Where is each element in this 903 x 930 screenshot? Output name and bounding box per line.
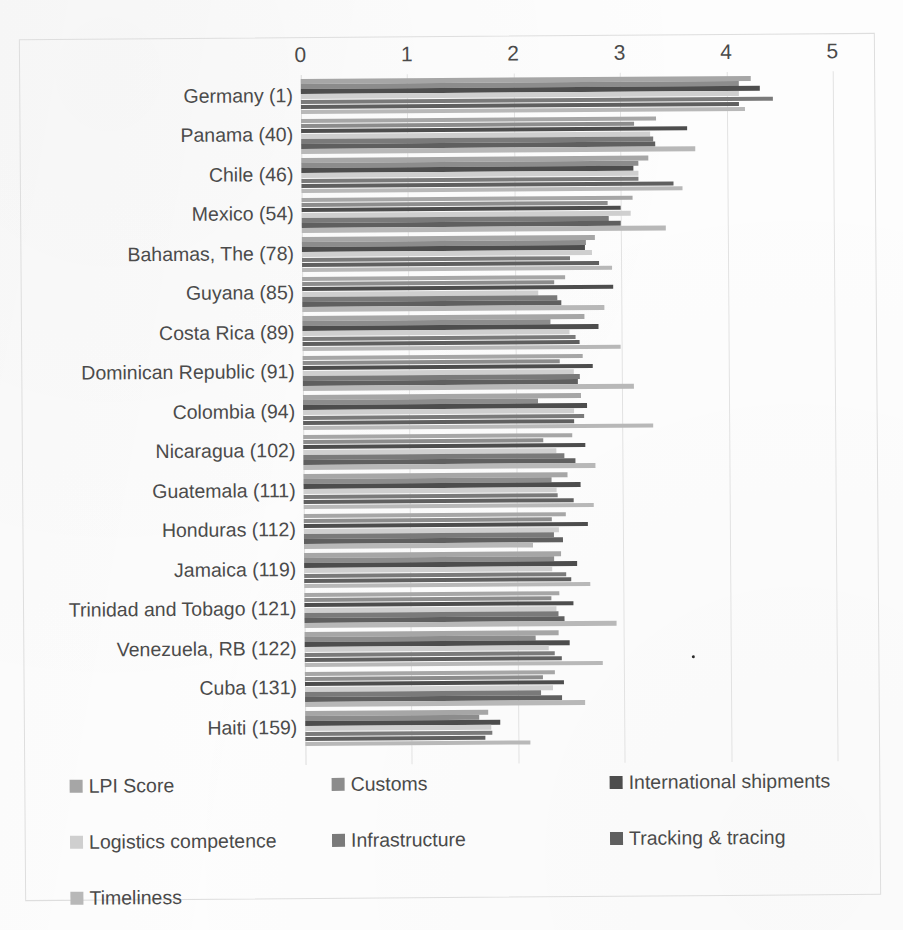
- bar-group: [303, 391, 839, 430]
- gridlines: [0, 0, 900, 3]
- bar-group: [302, 273, 838, 312]
- legend-swatch-icon: [610, 832, 623, 845]
- x-tick-label-5: 5: [812, 39, 852, 63]
- bar-timeliness: [305, 621, 617, 628]
- legend-label: International shipments: [629, 769, 831, 793]
- x-tick-label-3: 3: [600, 41, 640, 65]
- bar-group: [302, 194, 838, 233]
- category-label: Guyana (85): [0, 281, 294, 306]
- bar-group: [303, 352, 839, 391]
- legend-swatch-icon: [332, 778, 345, 791]
- bar-group: [301, 115, 837, 154]
- category-label: Panama (40): [0, 123, 293, 148]
- category-label: Jamaica (119): [0, 558, 296, 583]
- category-label: Germany (1): [0, 84, 293, 109]
- bar-group: [305, 707, 841, 746]
- category-label: Guatemala (111): [0, 479, 296, 504]
- legend-label: Customs: [351, 772, 428, 796]
- x-tick-label-0: 0: [281, 43, 321, 67]
- x-axis-tick-labels: 012345: [0, 0, 900, 3]
- x-tick-label-2: 2: [493, 41, 533, 65]
- category-label: Mexico (54): [0, 202, 294, 227]
- legend-label: Infrastructure: [351, 828, 466, 852]
- bar-timeliness: [305, 740, 530, 746]
- legend-swatch-icon: [610, 776, 623, 789]
- bar-timeliness: [303, 463, 595, 470]
- category-label: Colombia (94): [0, 400, 295, 425]
- bar-series-container: [0, 0, 900, 3]
- bar-timeliness: [305, 700, 585, 707]
- legend-label: LPI Score: [89, 774, 175, 798]
- category-label: Trinidad and Tobago (121): [0, 597, 297, 622]
- bar-timeliness: [304, 582, 590, 589]
- category-label: Venezuela, RB (122): [0, 637, 297, 662]
- bar-group: [305, 628, 841, 667]
- legend-label: Timeliness: [89, 886, 182, 910]
- bar-group: [304, 470, 840, 509]
- category-label: Cuba (131): [0, 676, 297, 701]
- legend-swatch-icon: [70, 780, 83, 793]
- legend-label: Logistics competence: [89, 829, 277, 853]
- scan-speck: [692, 655, 695, 658]
- bar-group: [302, 312, 838, 351]
- bar-timeliness: [304, 503, 594, 510]
- legend-swatch-icon: [70, 836, 83, 849]
- legend-item-international-shipments[interactable]: International shipments: [610, 769, 831, 794]
- bar-timeliness: [304, 543, 533, 549]
- y-axis-category-labels: Germany (1)Panama (40)Chile (46)Mexico (…: [0, 0, 900, 3]
- bar-group: [304, 510, 840, 549]
- bar-group: [304, 549, 840, 588]
- legend-item-logistics-competence[interactable]: Logistics competence: [70, 829, 277, 853]
- category-label: Nicaragua (102): [0, 439, 295, 464]
- bar-group: [303, 431, 839, 470]
- bar-timeliness: [302, 266, 612, 273]
- legend-item-timeliness[interactable]: Timeliness: [70, 886, 182, 910]
- chart-legend: LPI ScoreCustomsInternational shipmentsL…: [70, 769, 871, 905]
- x-tick-label-1: 1: [387, 42, 427, 66]
- bar-group: [304, 589, 840, 628]
- legend-item-tracking-tracing[interactable]: Tracking & tracing: [610, 826, 786, 850]
- legend-item-infrastructure[interactable]: Infrastructure: [332, 828, 466, 852]
- category-label: Dominican Republic (91): [0, 360, 295, 385]
- bar-timeliness: [303, 384, 634, 391]
- bar-group: [301, 75, 837, 114]
- category-label: Haiti (159): [0, 716, 297, 741]
- bar-group: [302, 233, 838, 272]
- legend-label: Tracking & tracing: [629, 826, 786, 850]
- category-label: Honduras (112): [0, 518, 296, 543]
- bar-timeliness: [305, 661, 603, 668]
- bar-group: [305, 668, 841, 707]
- bar-timeliness: [303, 345, 621, 352]
- legend-item-lpi-score[interactable]: LPI Score: [70, 774, 175, 798]
- legend-swatch-icon: [332, 834, 345, 847]
- x-tick-label-4: 4: [706, 40, 746, 64]
- bar-timeliness: [302, 305, 604, 312]
- category-label: Bahamas, The (78): [0, 242, 294, 267]
- bar-group: [301, 154, 837, 193]
- category-label: Costa Rica (89): [0, 321, 295, 346]
- legend-swatch-icon: [70, 892, 83, 905]
- lpi-bar-chart: 012345 Germany (1)Panama (40)Chile (46)M…: [0, 0, 903, 930]
- category-label: Chile (46): [0, 163, 294, 188]
- legend-item-customs[interactable]: Customs: [332, 772, 428, 796]
